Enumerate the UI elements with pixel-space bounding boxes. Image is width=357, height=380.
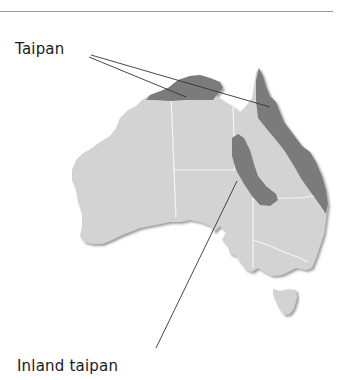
taipan-range-north	[146, 75, 223, 101]
taipan-leader-north	[89, 57, 186, 97]
taipan-label: Taipan	[15, 40, 64, 58]
inland-taipan-label: Inland taipan	[17, 357, 118, 375]
tasmania	[273, 289, 297, 315]
